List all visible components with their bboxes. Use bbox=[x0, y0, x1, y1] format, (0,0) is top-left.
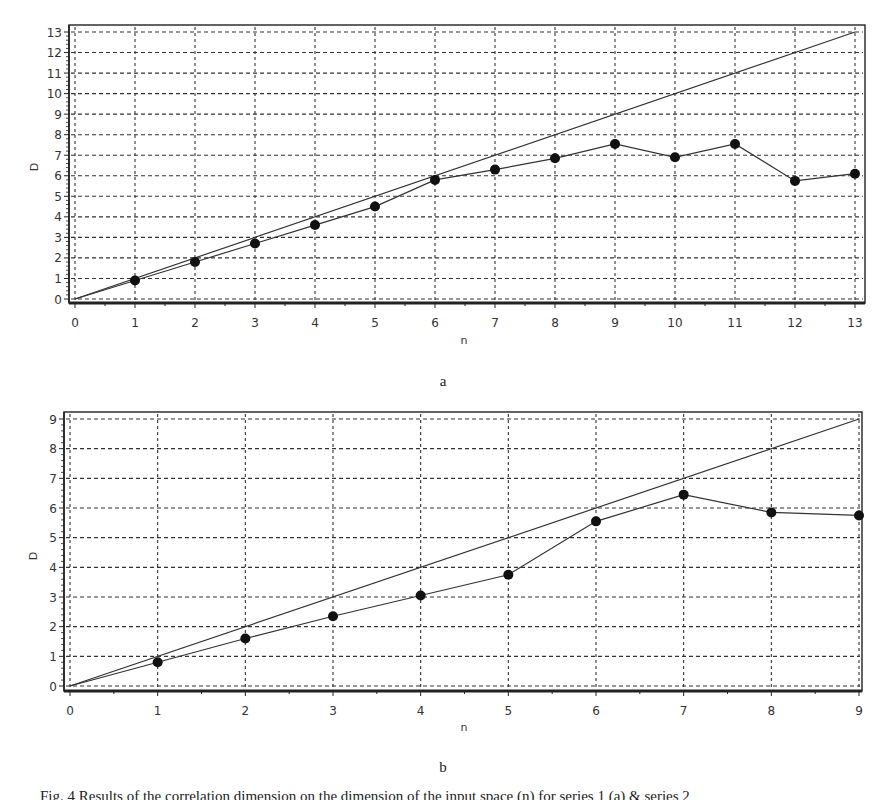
x-tick-label: 7 bbox=[680, 704, 688, 718]
figure-canvas: 012345678910111213012345678910111213nDa … bbox=[0, 0, 893, 800]
x-tick-label: 2 bbox=[191, 316, 199, 330]
y-tick-label: 11 bbox=[47, 67, 62, 81]
y-tick-label: 9 bbox=[49, 413, 57, 427]
grid-lines bbox=[66, 414, 860, 689]
y-tick-label: 12 bbox=[47, 46, 62, 60]
data-point-marker bbox=[370, 202, 380, 212]
y-tick-label: 5 bbox=[54, 190, 62, 204]
x-tick-label: 6 bbox=[431, 316, 439, 330]
x-tick-label: 5 bbox=[371, 316, 379, 330]
x-tick-label: 12 bbox=[787, 316, 802, 330]
plot-frame bbox=[69, 25, 865, 303]
data-point-marker bbox=[430, 175, 440, 185]
x-tick-label: 2 bbox=[242, 704, 250, 718]
x-axis-label: n bbox=[461, 721, 468, 734]
x-tick-label: 1 bbox=[154, 704, 162, 718]
x-tick-label: 9 bbox=[855, 704, 863, 718]
y-tick-label: 3 bbox=[54, 231, 62, 245]
plot-frame bbox=[64, 412, 862, 691]
y-tick-label: 7 bbox=[49, 472, 57, 486]
y-tick-label: 13 bbox=[47, 26, 62, 40]
y-tick-label: 8 bbox=[54, 128, 62, 142]
data-point-marker bbox=[503, 570, 513, 580]
axis-ticks: 01234567890123456789 bbox=[49, 413, 862, 719]
figure-caption: Fig. 4 Results of the correlation dimens… bbox=[0, 786, 893, 800]
x-tick-label: 7 bbox=[491, 316, 499, 330]
y-tick-label: 8 bbox=[49, 442, 57, 456]
y-tick-label: 10 bbox=[47, 87, 62, 101]
data-point-marker bbox=[591, 516, 601, 526]
data-point-marker bbox=[240, 634, 250, 644]
y-tick-label: 2 bbox=[49, 620, 57, 634]
y-tick-label: 3 bbox=[49, 591, 57, 605]
x-tick-label: 3 bbox=[329, 704, 337, 718]
data-series-line bbox=[75, 139, 860, 299]
panel-label: a bbox=[440, 373, 447, 389]
x-tick-label: 1 bbox=[131, 316, 139, 330]
data-point-marker bbox=[766, 507, 776, 517]
data-point-marker bbox=[328, 611, 338, 621]
x-tick-label: 0 bbox=[66, 704, 74, 718]
data-point-marker bbox=[850, 169, 860, 179]
x-tick-label: 3 bbox=[251, 316, 259, 330]
x-tick-label: 10 bbox=[667, 316, 682, 330]
y-tick-label: 6 bbox=[54, 169, 62, 183]
x-axis-label: n bbox=[461, 334, 468, 347]
y-tick-label: 4 bbox=[49, 561, 57, 575]
data-point-marker bbox=[790, 176, 800, 186]
y-tick-label: 5 bbox=[49, 531, 57, 545]
reference-line bbox=[70, 419, 859, 686]
data-point-marker bbox=[730, 139, 740, 149]
x-tick-label: 0 bbox=[71, 316, 79, 330]
x-tick-label: 9 bbox=[611, 316, 619, 330]
y-tick-label: 2 bbox=[54, 251, 62, 265]
x-tick-label: 6 bbox=[592, 704, 600, 718]
data-point-marker bbox=[670, 152, 680, 162]
data-point-marker bbox=[153, 657, 163, 667]
y-tick-label: 1 bbox=[49, 650, 57, 664]
chart-panel-b: 01234567890123456789nDb bbox=[27, 412, 864, 775]
data-point-marker bbox=[550, 153, 560, 163]
y-tick-label: 1 bbox=[54, 272, 62, 286]
y-axis-label: D bbox=[28, 163, 41, 171]
y-tick-label: 4 bbox=[54, 210, 62, 224]
y-tick-label: 0 bbox=[49, 680, 57, 694]
data-point-marker bbox=[310, 220, 320, 230]
x-tick-label: 8 bbox=[551, 316, 559, 330]
data-point-marker bbox=[854, 510, 864, 520]
y-tick-label: 0 bbox=[54, 293, 62, 307]
y-tick-label: 7 bbox=[54, 149, 62, 163]
data-point-marker bbox=[610, 139, 620, 149]
x-tick-label: 4 bbox=[417, 704, 425, 718]
y-tick-label: 6 bbox=[49, 502, 57, 516]
x-tick-label: 4 bbox=[311, 316, 319, 330]
x-tick-label: 5 bbox=[505, 704, 513, 718]
y-tick-label: 9 bbox=[54, 108, 62, 122]
x-tick-label: 13 bbox=[847, 316, 862, 330]
data-point-marker bbox=[416, 591, 426, 601]
y-axis-label: D bbox=[27, 552, 40, 560]
panel-label: b bbox=[439, 759, 447, 775]
data-point-marker bbox=[130, 276, 140, 286]
data-point-marker bbox=[490, 165, 500, 175]
data-point-marker bbox=[190, 257, 200, 267]
chart-panel-a: 012345678910111213012345678910111213nDa bbox=[28, 25, 865, 389]
data-point-marker bbox=[679, 490, 689, 500]
data-point-marker bbox=[250, 239, 260, 249]
x-tick-label: 11 bbox=[727, 316, 742, 330]
x-tick-label: 8 bbox=[768, 704, 776, 718]
